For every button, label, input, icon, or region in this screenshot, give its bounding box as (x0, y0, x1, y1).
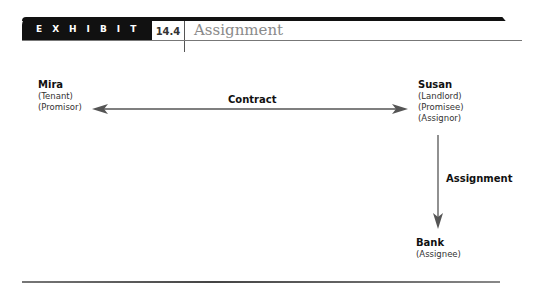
contract-arrow (92, 104, 408, 114)
assignment-arrow (433, 135, 443, 229)
diagram-arrows (0, 0, 543, 291)
footer-rule (22, 281, 500, 283)
